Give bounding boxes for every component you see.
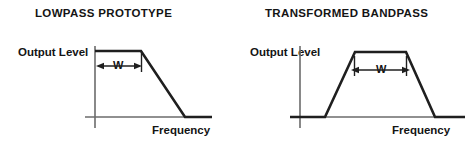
filter-transformation-figure: LOWPASS PROTOTYPE Output Level Frequency… <box>0 0 469 148</box>
bandpass-response-curve <box>290 52 465 117</box>
lowpass-prototype-panel: LOWPASS PROTOTYPE Output Level Frequency… <box>0 0 234 148</box>
lowpass-dimension-arrow-left <box>96 63 104 69</box>
lowpass-plot-svg <box>0 0 234 148</box>
bandpass-plot-svg <box>234 0 469 148</box>
transformed-bandpass-panel: TRANSFORMED BANDPASS Output Level Freque… <box>234 0 469 148</box>
lowpass-response-curve <box>95 51 212 117</box>
